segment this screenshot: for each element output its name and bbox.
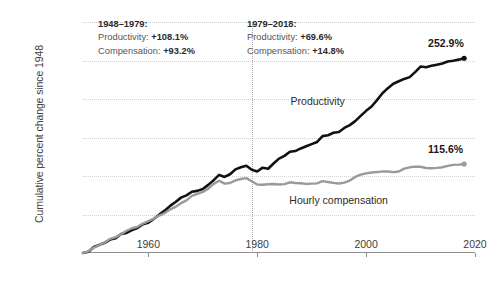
annotation-period: 1948–1979: xyxy=(98,18,195,31)
annotation-compensation: Compensation: +93.2% xyxy=(98,45,195,58)
annotation-productivity-value: +108.1% xyxy=(151,32,188,42)
annotation-compensation-label: Compensation: xyxy=(247,46,310,56)
endpoint-marker xyxy=(462,56,467,61)
annotation-1979-2018: 1979–2018: Productivity: +69.6% Compensa… xyxy=(247,18,344,58)
end-label-productivity: 252.9% xyxy=(428,37,464,49)
annotation-compensation: Compensation: +14.8% xyxy=(247,45,344,58)
x-tick-mark xyxy=(148,253,149,257)
annotation-productivity-label: Productivity: xyxy=(247,32,298,42)
x-tick-label: 1980 xyxy=(227,238,287,250)
annotation-compensation-value: +93.2% xyxy=(163,46,195,56)
end-label-hourly-compensation: 115.6% xyxy=(428,143,463,155)
annotation-productivity-label: Productivity: xyxy=(98,32,149,42)
x-tick-label: 2020 xyxy=(445,238,491,250)
annotation-compensation-value: +14.8% xyxy=(312,46,344,56)
endpoint-marker xyxy=(462,161,467,166)
x-tick-mark xyxy=(366,253,367,257)
x-tick-label: 1960 xyxy=(118,238,178,250)
y-axis-title: Cumulative percent change since 1948 xyxy=(33,34,45,234)
annotation-1948-1979: 1948–1979: Productivity: +108.1% Compens… xyxy=(98,18,195,58)
x-tick-label: 2000 xyxy=(336,238,396,250)
annotation-productivity-value: +69.6% xyxy=(300,32,332,42)
annotation-productivity: Productivity: +69.6% xyxy=(247,31,344,44)
line-productivity xyxy=(83,58,464,253)
series-label-productivity: Productivity xyxy=(291,95,345,107)
annotation-period: 1979–2018: xyxy=(247,18,344,31)
series-label-hourly-compensation: Hourly compensation xyxy=(289,194,388,206)
annotation-compensation-label: Compensation: xyxy=(98,46,161,56)
x-tick-mark xyxy=(257,253,258,257)
x-tick-mark xyxy=(475,253,476,257)
annotation-productivity: Productivity: +108.1% xyxy=(98,31,195,44)
